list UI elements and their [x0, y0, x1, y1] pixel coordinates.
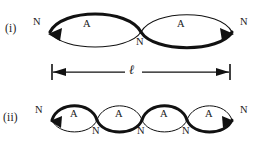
row-ii-loop3-thin-arc — [142, 120, 187, 132]
row-ii-antinode-4-label: A — [205, 108, 213, 119]
row-ii-node-4-label: N — [182, 125, 190, 136]
row-ii-loop2-thick-arc — [97, 120, 142, 132]
row-i-right-node-label: N — [240, 16, 248, 27]
dimension-left-arrowhead — [53, 68, 66, 76]
row-ii-left-node-label: N — [35, 104, 43, 115]
row-i-middle-node-label: N — [136, 36, 144, 47]
row-i-loop2-thin-arc — [141, 15, 232, 32]
row-ii-antinode-2-label: A — [115, 108, 123, 119]
row-i-loop1-thick-arc — [50, 14, 141, 32]
row-ii-antinode-3-label: A — [160, 108, 168, 119]
dimension-line — [52, 64, 230, 80]
row-i-loop2-thick-arc — [141, 32, 232, 48]
row-ii-antinode-1-label: A — [70, 108, 78, 119]
row-ii-node-3-label: N — [137, 125, 145, 136]
row-i-antinode-2-label: A — [177, 18, 185, 29]
dimension-right-arrowhead — [216, 68, 229, 76]
row-i-antinode-1-label: A — [83, 18, 91, 29]
row-label-ii: (ii) — [3, 111, 18, 123]
standing-wave-figure: (i) — [0, 0, 263, 142]
length-label: ℓ — [129, 62, 134, 78]
row-i-left-node-label: N — [33, 16, 41, 27]
row-ii-right-node-label: N — [240, 104, 248, 115]
row-i-loop1-thin-arc — [50, 32, 141, 47]
row-ii-node-2-label: N — [92, 125, 100, 136]
